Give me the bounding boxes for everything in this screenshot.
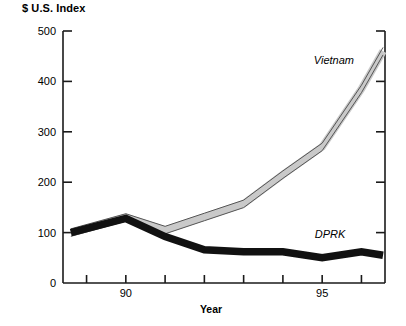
y-tick-label: 500: [16, 25, 56, 37]
chart-container: $ U.S. Index Year 01002003004005009095 V…: [0, 0, 406, 326]
y-tick-label: 0: [16, 277, 56, 289]
series-edge-top-vietnam: [71, 47, 383, 228]
y-tick-label: 200: [16, 176, 56, 188]
series-label-dprk: DPRK: [315, 228, 346, 240]
y-tick-label: 100: [16, 227, 56, 239]
y-tick-label: 400: [16, 75, 56, 87]
plot-area: [0, 0, 406, 326]
series-label-vietnam: Vietnam: [314, 54, 354, 66]
x-tick-label: 90: [106, 287, 146, 299]
x-tick-label: 95: [302, 287, 342, 299]
y-tick-label: 300: [16, 126, 56, 138]
